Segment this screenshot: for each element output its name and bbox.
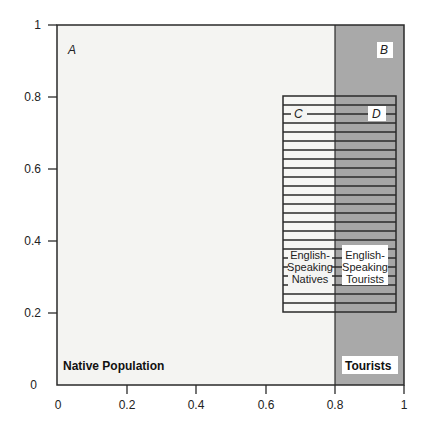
x-axis-ticks [127, 385, 404, 394]
y-tick-0.4: 0.4 [24, 234, 41, 248]
english-tourists-line3: Tourists [346, 273, 384, 285]
native-population-label: Native Population [63, 359, 164, 373]
english-tourists-line1: English- [345, 249, 385, 261]
label-c: C [294, 107, 303, 121]
y-tick-0.2: 0.2 [24, 306, 41, 320]
x-tick-0.6: 0.6 [258, 398, 275, 412]
y-axis-ticks [48, 25, 57, 313]
y-axis-labels: 1 0.8 0.6 0.4 0.2 0 [24, 18, 41, 392]
english-natives-line3: Natives [292, 273, 329, 285]
tourists-label: Tourists [345, 359, 392, 373]
english-natives-line1: English- [290, 249, 330, 261]
english-natives-line2: Speaking [287, 261, 333, 273]
english-tourists-line2: Speaking [342, 261, 388, 273]
label-b: B [380, 43, 388, 57]
label-a: A [67, 43, 76, 57]
y-tick-0.8: 0.8 [24, 90, 41, 104]
x-tick-0.2: 0.2 [119, 398, 136, 412]
x-tick-0.4: 0.4 [188, 398, 205, 412]
x-tick-0: 0 [55, 398, 62, 412]
x-tick-1: 1 [401, 398, 408, 412]
y-tick-0.6: 0.6 [24, 162, 41, 176]
label-d: D [372, 107, 381, 121]
x-axis-labels: 0 0.2 0.4 0.6 0.8 1 [55, 398, 408, 412]
venn-probability-diagram: 1 0.8 0.6 0.4 0.2 0 0 0.2 0.4 0.6 0.8 1 … [0, 0, 425, 429]
y-tick-1: 1 [34, 18, 41, 32]
x-tick-0.8: 0.8 [327, 398, 344, 412]
y-tick-0: 0 [30, 378, 37, 392]
